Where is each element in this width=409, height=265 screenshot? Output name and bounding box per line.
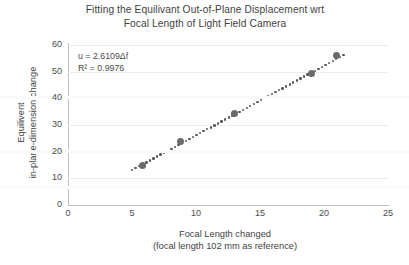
- trendline-dot: [267, 95, 269, 97]
- y-tick-label-10: 10: [38, 172, 62, 182]
- trendline-dot: [210, 126, 212, 128]
- chart-container: Fitting the Equilivant Out-of-Plane Disp…: [0, 0, 409, 265]
- data-point-4[interactable]: [308, 70, 315, 77]
- x-tick-label-25: 25: [373, 208, 403, 218]
- gridline-y-60: [68, 45, 388, 46]
- x-tick-label-15: 15: [245, 208, 275, 218]
- trendline-dot: [328, 62, 330, 64]
- x-axis-title-line-2: (focal length 102 mm as reference): [60, 240, 390, 252]
- gridline-y-20: [68, 152, 388, 153]
- trendline-dot: [271, 93, 273, 95]
- trendline-dot: [206, 128, 208, 130]
- x-axis-line: [68, 205, 389, 206]
- trendline-dot: [152, 157, 154, 159]
- trendline-dot: [253, 103, 255, 105]
- trendline-dot: [285, 85, 287, 87]
- trendline-dot: [224, 118, 226, 120]
- trendline-dot: [317, 68, 319, 70]
- trendline-dot: [256, 101, 258, 103]
- chart-title-line-1: Fitting the Equilivant Out-of-Plane Disp…: [86, 4, 324, 15]
- trendline-dot: [281, 87, 283, 89]
- y-tick-label-40: 40: [38, 92, 62, 102]
- gridline-y-50: [68, 72, 388, 73]
- data-point-5[interactable]: [333, 52, 340, 59]
- trendline-dot: [292, 81, 294, 83]
- chart-title-line-2: Focal Length of Light Field Camera: [40, 17, 370, 31]
- trendline-dot: [156, 155, 158, 157]
- trendline-dot: [167, 150, 169, 152]
- trendline-dot: [296, 79, 298, 81]
- trendline-dot: [213, 124, 215, 126]
- x-tick-label-5: 5: [117, 208, 147, 218]
- trendline-dot: [199, 132, 201, 134]
- trendline-dot: [321, 66, 323, 68]
- gridline-y-30: [68, 125, 388, 126]
- trendline-dot: [159, 153, 161, 155]
- trendline-dot: [202, 130, 204, 132]
- trendline-dot: [332, 60, 334, 62]
- trendline-dot: [217, 122, 219, 124]
- trendline-dot: [303, 75, 305, 77]
- x-tick-label-0: 0: [53, 208, 83, 218]
- trendline-dot: [246, 107, 248, 109]
- trendline-dot: [238, 111, 240, 113]
- trendline-dot: [192, 136, 194, 138]
- y-tick-label-20: 20: [38, 146, 62, 156]
- trendline-dot: [174, 146, 176, 148]
- trendline-dot: [195, 134, 197, 136]
- plot-area: [68, 45, 388, 205]
- trendline-dot: [242, 109, 244, 111]
- trendline-dot: [185, 140, 187, 142]
- data-point-1[interactable]: [139, 162, 146, 169]
- trendline-dot: [149, 159, 151, 161]
- chart-title: Fitting the Equilivant Out-of-Plane Disp…: [40, 3, 370, 30]
- y-tick-label-50: 50: [38, 66, 62, 76]
- trendline-dot: [220, 120, 222, 122]
- trendline-dot: [289, 83, 291, 85]
- x-tick-label-20: 20: [309, 208, 339, 218]
- y-axis-title-line-2: in-plane-dimension change: [27, 67, 37, 179]
- trendline-dot: [299, 77, 301, 79]
- trendline-dot: [249, 105, 251, 107]
- x-axis-title: Focal Length changed (focal length 102 m…: [60, 228, 390, 252]
- data-point-3[interactable]: [231, 110, 238, 117]
- trendline-dot: [274, 91, 276, 93]
- y-axis-title-text: Equilivent in-plane-dimension change: [16, 43, 39, 203]
- trendline-dot: [263, 97, 265, 99]
- trendline-dot: [188, 138, 190, 140]
- y-tick-label-30: 30: [38, 119, 62, 129]
- x-tick-label-10: 10: [181, 208, 211, 218]
- trendline-dot: [134, 167, 136, 169]
- trendline-dot: [170, 148, 172, 150]
- trendline-dot: [131, 169, 133, 171]
- trendline-dot: [228, 116, 230, 118]
- gridline-y-40: [68, 98, 388, 99]
- gridline-y-10: [68, 178, 388, 179]
- trendline-dot: [324, 64, 326, 66]
- y-axis-title-line-1: Equilivent: [16, 102, 26, 142]
- data-point-2[interactable]: [177, 138, 184, 145]
- x-axis-title-line-1: Focal Length changed: [179, 229, 271, 239]
- trendline-dot: [260, 99, 262, 101]
- trendline-dot: [342, 54, 344, 56]
- trendline-dot: [278, 89, 280, 91]
- y-tick-label-60: 60: [38, 39, 62, 49]
